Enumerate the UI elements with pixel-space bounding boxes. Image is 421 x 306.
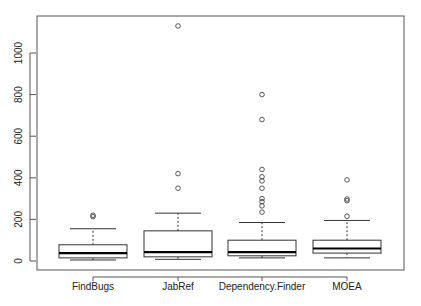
outlier-point bbox=[176, 24, 181, 29]
outlier-point bbox=[260, 186, 265, 191]
outlier-point bbox=[176, 171, 181, 176]
y-axis: 02004006008001000 bbox=[13, 41, 36, 263]
y-tick-label: 0 bbox=[13, 258, 24, 264]
box-jabref bbox=[144, 24, 212, 260]
box-moea bbox=[313, 178, 381, 258]
plot-frame bbox=[37, 16, 404, 270]
iqr-box bbox=[228, 240, 296, 256]
y-tick-label: 400 bbox=[13, 169, 24, 186]
outlier-point bbox=[260, 117, 265, 122]
x-tick-label: JabRef bbox=[162, 281, 194, 292]
x-tick-label: Dependency.Finder bbox=[219, 281, 306, 292]
outlier-point bbox=[345, 214, 350, 219]
chart-canvas: 02004006008001000 FindBugsJabRefDependen… bbox=[0, 0, 421, 306]
box-findbugs bbox=[59, 213, 127, 260]
y-tick-label: 1000 bbox=[13, 41, 24, 64]
box-dependency-finder bbox=[228, 92, 296, 258]
y-tick-label: 200 bbox=[13, 211, 24, 228]
iqr-box bbox=[313, 240, 381, 253]
y-tick-label: 600 bbox=[13, 127, 24, 144]
x-tick-label: MOEA bbox=[332, 281, 362, 292]
outlier-point bbox=[260, 92, 265, 97]
x-tick-label: FindBugs bbox=[72, 281, 114, 292]
outlier-point bbox=[260, 196, 265, 201]
outlier-point bbox=[260, 167, 265, 172]
outlier-point bbox=[176, 186, 181, 191]
y-tick-label: 800 bbox=[13, 86, 24, 103]
x-axis: FindBugsJabRefDependency.FinderMOEA bbox=[72, 277, 362, 292]
iqr-box bbox=[59, 245, 127, 258]
outlier-point bbox=[260, 210, 265, 215]
outlier-point bbox=[345, 178, 350, 183]
boxplot-chart: 02004006008001000 FindBugsJabRefDependen… bbox=[0, 0, 421, 306]
boxes bbox=[59, 24, 381, 260]
